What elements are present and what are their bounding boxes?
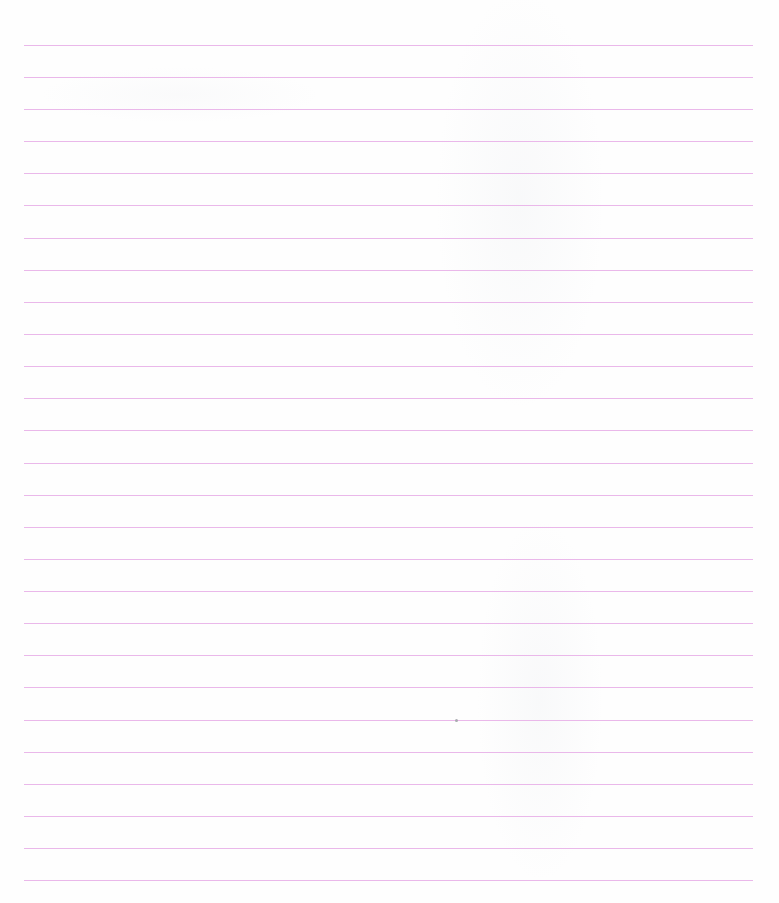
scan-noise xyxy=(0,0,779,903)
ruled-line xyxy=(24,559,753,560)
ruled-line xyxy=(24,591,753,592)
ruled-line xyxy=(24,45,753,46)
ruled-line xyxy=(24,880,753,881)
ruled-line xyxy=(24,302,753,303)
dust-speck xyxy=(455,719,458,722)
ruled-line xyxy=(24,655,753,656)
ruled-line xyxy=(24,495,753,496)
ruled-line xyxy=(24,270,753,271)
ruled-line xyxy=(24,816,753,817)
ruled-line xyxy=(24,238,753,239)
ruled-line xyxy=(24,463,753,464)
ruled-line xyxy=(24,205,753,206)
ruled-line xyxy=(24,141,753,142)
ruled-line xyxy=(24,752,753,753)
ruled-line xyxy=(24,398,753,399)
ruled-line xyxy=(24,687,753,688)
ruled-line xyxy=(24,109,753,110)
lined-paper-page xyxy=(0,0,779,903)
ruled-line xyxy=(24,784,753,785)
ruled-line xyxy=(24,366,753,367)
ruled-line xyxy=(24,173,753,174)
ruled-line xyxy=(24,77,753,78)
ruled-line xyxy=(24,720,753,721)
ruled-line xyxy=(24,623,753,624)
ruled-line xyxy=(24,527,753,528)
ruled-line xyxy=(24,848,753,849)
ruled-line xyxy=(24,334,753,335)
ruled-line xyxy=(24,430,753,431)
